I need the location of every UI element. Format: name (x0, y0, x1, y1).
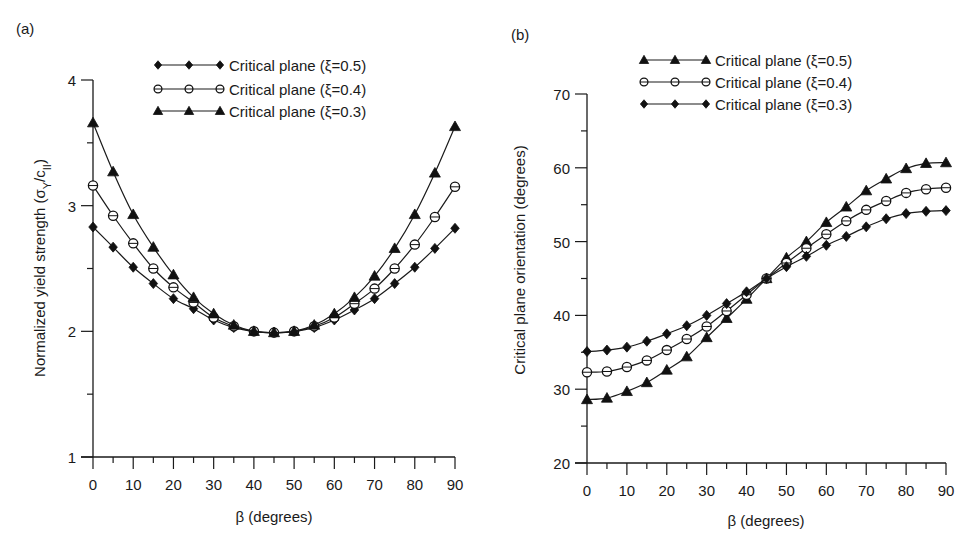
y-tick-label: 4 (68, 72, 76, 89)
diamond-marker (671, 100, 678, 109)
x-axis-label-a: β (degrees) (236, 508, 313, 525)
diamond-marker (922, 206, 931, 216)
diamond-marker (682, 321, 691, 331)
y-axis-label-b: Critical plane orientation (degrees) (511, 145, 528, 374)
legend-label: Critical plane (ξ=0.5) (229, 57, 366, 74)
diamond-marker (902, 209, 911, 219)
series-group-a (88, 117, 461, 337)
series-circle (88, 181, 459, 337)
legend-item: Critical plane (ξ=0.5) (154, 57, 366, 74)
diamond-marker (149, 279, 158, 289)
legend-label: Critical plane (ξ=0.4) (715, 74, 852, 91)
series-line (93, 123, 455, 333)
diamond-marker (842, 231, 851, 241)
diamond-marker (603, 345, 612, 355)
chart-panel-a: (a) 12340102030405060708090 Critical pla… (16, 20, 463, 525)
x-tick-label: 30 (205, 476, 222, 493)
diamond-marker (663, 329, 672, 339)
x-tick-label: 0 (89, 476, 97, 493)
triangle-marker (821, 217, 832, 227)
y-tick-label: 30 (553, 381, 570, 398)
x-tick-label: 70 (366, 476, 383, 493)
diamond-marker (640, 100, 647, 109)
diamond-marker (216, 61, 223, 70)
diamond-marker (185, 61, 192, 70)
triangle-marker (148, 242, 159, 252)
legend-b: Critical plane (ξ=0.5)Critical plane (ξ=… (639, 52, 852, 113)
diamond-marker (802, 251, 811, 261)
x-tick-label: 60 (818, 482, 835, 499)
x-tick-label: 70 (858, 482, 875, 499)
triangle-marker (409, 209, 420, 219)
axes-a: 12340102030405060708090 (68, 72, 464, 493)
triangle-marker (108, 166, 119, 176)
x-tick-label: 20 (165, 476, 182, 493)
x-tick-label: 10 (125, 476, 142, 493)
x-tick-label: 60 (326, 476, 343, 493)
triangle-marker (901, 163, 912, 173)
x-tick-label: 40 (246, 476, 263, 493)
legend-label: Critical plane (ξ=0.3) (229, 103, 366, 120)
series-line (93, 186, 455, 333)
series-triangle (88, 117, 461, 336)
x-tick-label: 10 (619, 482, 636, 499)
x-tick-label: 80 (406, 476, 423, 493)
x-tick-label: 50 (286, 476, 303, 493)
diamond-marker (643, 336, 652, 346)
x-tick-label: 40 (738, 482, 755, 499)
diamond-marker (702, 310, 711, 320)
x-tick-label: 90 (938, 482, 955, 499)
x-tick-label: 90 (447, 476, 464, 493)
panel-label-a: (a) (16, 20, 34, 37)
y-tick-label: 50 (553, 234, 570, 251)
diamond-marker (942, 206, 951, 216)
y-tick-label: 2 (68, 323, 76, 340)
legend-label: Critical plane (ξ=0.4) (229, 81, 366, 98)
diamond-marker (623, 342, 632, 352)
diamond-marker (154, 61, 161, 70)
diamond-marker (390, 279, 399, 289)
triangle-marker (661, 365, 672, 375)
diamond-marker (822, 240, 831, 250)
panel-label-b: (b) (511, 26, 529, 43)
x-tick-label: 20 (658, 482, 675, 499)
legend-a: Critical plane (ξ=0.5)Critical plane (ξ=… (153, 57, 366, 120)
legend-item: Critical plane (ξ=0.4) (154, 81, 366, 98)
diamond-marker (882, 214, 891, 224)
legend-item: Critical plane (ξ=0.4) (640, 74, 852, 91)
x-tick-label: 80 (898, 482, 915, 499)
y-tick-label: 60 (553, 160, 570, 177)
triangle-marker (941, 157, 952, 167)
figure: (a) 12340102030405060708090 Critical pla… (0, 0, 976, 558)
diamond-marker (583, 347, 592, 357)
legend-label: Critical plane (ξ=0.3) (715, 96, 852, 113)
triangle-marker (88, 117, 99, 127)
diamond-marker (411, 262, 420, 272)
chart-panel-b: (b) 2030405060700102030405060708090 Crit… (511, 26, 954, 529)
y-tick-label: 20 (553, 455, 570, 472)
figure-canvas: (a) 12340102030405060708090 Critical pla… (0, 0, 976, 558)
series-group-b (582, 157, 952, 404)
x-tick-label: 30 (698, 482, 715, 499)
triangle-marker (881, 173, 892, 183)
triangle-marker (621, 386, 632, 396)
triangle-marker (641, 377, 652, 387)
legend-item: Critical plane (ξ=0.5) (639, 52, 852, 69)
triangle-marker (208, 308, 219, 318)
y-tick-label: 1 (68, 449, 76, 466)
legend-item: Critical plane (ξ=0.3) (153, 103, 366, 120)
diamond-marker (862, 222, 871, 232)
legend-item: Critical plane (ξ=0.3) (640, 96, 852, 113)
triangle-marker (450, 121, 461, 131)
series-diamond (89, 222, 460, 338)
diamond-marker (370, 294, 379, 304)
x-axis-label-b: β (degrees) (728, 512, 805, 529)
triangle-marker (429, 167, 440, 177)
triangle-marker (329, 308, 340, 318)
triangle-marker (841, 201, 852, 211)
diamond-marker (169, 294, 178, 304)
legend-label: Critical plane (ξ=0.5) (715, 52, 852, 69)
y-axis-label-a: Normalized yield strength (σY/cII) (31, 159, 53, 377)
series-line (93, 227, 455, 333)
diamond-marker (702, 100, 709, 109)
